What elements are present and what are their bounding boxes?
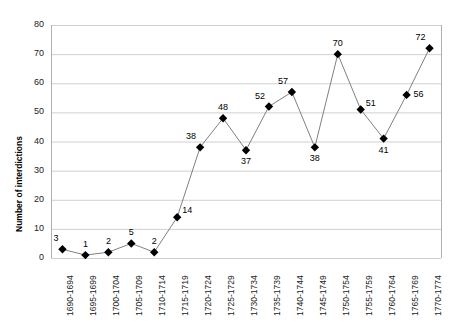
data-point-label: 41 <box>379 146 389 155</box>
data-point-marker <box>288 88 296 96</box>
x-tick-label: 1690-1694 <box>66 275 75 316</box>
x-tick-label: 1705-1709 <box>135 275 144 316</box>
x-tick-label: 1695-1699 <box>89 275 98 316</box>
data-point-label: 56 <box>414 90 424 99</box>
data-point-label: 52 <box>255 92 265 101</box>
data-point-label: 14 <box>182 206 192 215</box>
data-point-marker <box>219 114 227 122</box>
gridlines <box>51 26 441 259</box>
data-point-marker <box>402 91 410 99</box>
data-point-label: 72 <box>416 33 426 42</box>
data-point-label: 38 <box>186 132 196 141</box>
data-point-label: 5 <box>129 228 134 237</box>
data-point-marker <box>311 143 319 151</box>
data-point-label: 38 <box>310 154 320 163</box>
x-tick-label: 1725-1729 <box>227 275 236 316</box>
x-tick-label: 1710-1714 <box>158 275 167 316</box>
x-tick-label: 1765-1769 <box>411 275 420 316</box>
data-point-label: 48 <box>218 103 228 112</box>
x-tick-label: 1720-1724 <box>204 275 213 316</box>
data-point-marker <box>104 248 112 256</box>
x-tick-label: 1700-1704 <box>112 275 121 316</box>
chart-container: Number of interdictions 0102030405060708… <box>0 0 456 330</box>
data-point-label: 37 <box>241 157 251 166</box>
data-point-marker <box>265 102 273 110</box>
data-point-marker <box>173 213 181 221</box>
data-point-marker <box>425 44 433 52</box>
data-point-label: 3 <box>54 234 59 243</box>
data-point-marker <box>196 143 204 151</box>
series-markers <box>58 44 433 259</box>
x-tick-label: 1755-1759 <box>365 275 374 316</box>
x-tick-label: 1735-1739 <box>273 275 282 316</box>
data-point-marker <box>58 245 66 253</box>
x-tick-label: 1730-1734 <box>250 275 259 316</box>
data-point-marker <box>127 239 135 247</box>
data-point-label: 2 <box>106 237 111 246</box>
data-point-label: 57 <box>278 77 288 86</box>
data-point-label: 1 <box>83 240 88 249</box>
x-tick-label: 1745-1749 <box>319 275 328 316</box>
x-tick-label: 1715-1719 <box>181 275 190 316</box>
x-tick-label: 1760-1764 <box>388 275 397 316</box>
x-tick-label: 1770-1774 <box>434 275 443 316</box>
x-tick-label: 1740-1744 <box>296 275 305 316</box>
data-point-marker <box>242 146 250 154</box>
data-point-label: 51 <box>366 99 376 108</box>
data-point-marker <box>150 248 158 256</box>
data-point-label: 70 <box>333 39 343 48</box>
x-tick-label: 1750-1754 <box>342 275 351 316</box>
data-point-marker <box>334 50 342 58</box>
data-point-label: 2 <box>152 237 157 246</box>
